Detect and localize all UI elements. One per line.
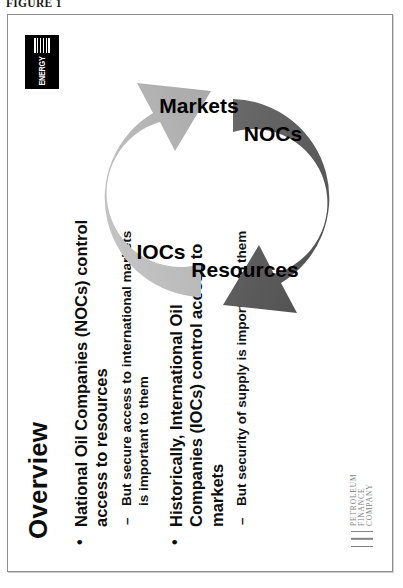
logo-bar	[48, 38, 50, 53]
bullet-marker: –	[119, 517, 136, 525]
cycle-label-iocs: IOCs	[136, 240, 185, 263]
slide-canvas: Overview ENERGY • National Oil Companies…	[9, 17, 391, 569]
energy-intelligence-logo-bars	[34, 38, 50, 53]
energy-intelligence-logo-word: ENERGY	[36, 56, 47, 85]
cycle-label-markets: Markets	[159, 94, 238, 117]
cycle-label-nocs: NOCs	[244, 122, 302, 145]
pfc-logo-mark	[351, 531, 373, 547]
energy-intelligence-logo: ENERGY	[25, 35, 59, 89]
cycle-label-resources: Resources	[191, 258, 298, 281]
bullet-marker: –	[234, 517, 251, 525]
bullet-marker: •	[70, 539, 90, 545]
logo-bar	[34, 38, 36, 53]
figure-caption: FIGURE 1	[6, 0, 62, 9]
logo-bar	[37, 38, 39, 53]
logo-bar	[40, 38, 42, 53]
slide-frame: Overview ENERGY • National Oil Companies…	[7, 14, 393, 572]
pfc-logo-line3: COMPANY	[366, 474, 374, 526]
cycle-diagram: IOCs Markets Resources NOCs	[83, 69, 351, 327]
logo-bar	[46, 38, 48, 53]
energy-intelligence-logo-inner: ENERGY	[34, 38, 50, 85]
logo-bar	[43, 38, 45, 53]
petroleum-finance-company-logo: PETROLEUM FINANCE COMPANY	[347, 451, 377, 547]
pfc-logo-words: PETROLEUM FINANCE COMPANY	[350, 474, 373, 526]
bullet-marker: •	[165, 539, 185, 545]
slide-title: Overview	[23, 422, 54, 539]
